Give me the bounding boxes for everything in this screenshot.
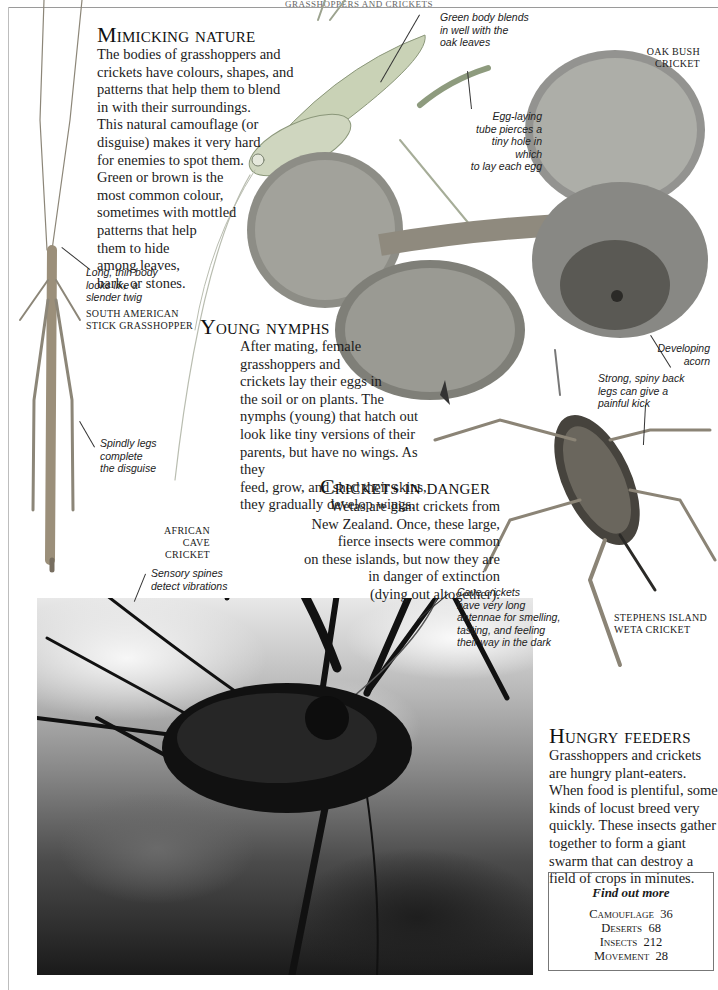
label-oak-bush-cricket: OAK BUSH CRICKET (640, 46, 700, 70)
caption-line: legs can give a (598, 385, 684, 398)
text-line: Grasshoppers and crickets (549, 747, 718, 765)
label-line: AFRICAN (140, 525, 210, 537)
cross-reference-item[interactable]: Insects 212 (549, 935, 713, 949)
label-african-cave-cricket: AFRICAN CAVE CRICKET (140, 525, 210, 561)
text-line: crickets lay their eggs in (240, 373, 430, 391)
section-heading: Young nymphs (200, 316, 430, 338)
cross-reference-topic: Movement (594, 949, 649, 963)
text-line: crickets have colours, shapes, and (97, 64, 297, 82)
caption-line: looks like a (86, 279, 158, 292)
label-line: OAK BUSH (640, 46, 700, 58)
cross-reference-topic: Camouflage (589, 907, 654, 921)
cave-cricket-image (37, 598, 533, 975)
caption-spindly-legs: Spindly legs complete the disguise (100, 437, 157, 475)
label-line: STICK GRASSHOPPER (86, 320, 193, 332)
caption-line: to lay each egg (470, 160, 542, 173)
label-line: SOUTH AMERICAN (86, 308, 193, 320)
caption-line: Cave crickets (457, 586, 560, 599)
cross-reference-item[interactable]: Deserts 68 (549, 921, 713, 935)
section-heading: Crickets in danger (320, 476, 520, 498)
cross-reference-page: 212 (644, 935, 663, 949)
caption-green-body: Green body blends in well with the oak l… (440, 11, 529, 49)
caption-line: their way in the dark (457, 636, 560, 649)
text-line: nymphs (young) that hatch out (240, 408, 430, 426)
find-out-more-heading: Find out more (549, 885, 713, 901)
caption-line: slender twig (86, 291, 158, 304)
cross-reference-list: Camouflage 36 Deserts 68 Insects 212 Mov… (549, 907, 713, 963)
text-line: This natural camouflage (or (97, 116, 297, 134)
cross-reference-item[interactable]: Camouflage 36 (549, 907, 713, 921)
label-line: CRICKET (640, 58, 700, 70)
section-body: Grasshoppers and crickets are hungry pla… (549, 747, 718, 888)
text-line: in with their surroundings. (97, 99, 297, 117)
caption-line: in well with the (440, 24, 529, 37)
text-line: swarm that can destroy a (549, 853, 718, 871)
text-line: on these islands, but now they are (290, 551, 500, 569)
caption-cave-cricket-antennae: Cave crickets have very long antennae fo… (457, 586, 560, 649)
cross-reference-page: 36 (660, 907, 673, 921)
text-line: in danger of extinction (290, 568, 500, 586)
caption-line: oak leaves (440, 36, 529, 49)
caption-line: Spindly legs (100, 437, 157, 450)
caption-line: antennae for smelling, (457, 611, 560, 624)
text-line: sometimes with mottled (97, 204, 297, 222)
text-line: for enemies to spot them. (97, 152, 297, 170)
text-line: patterns that help (97, 222, 297, 240)
section-crickets-in-danger: Crickets in danger Wetas are giant crick… (270, 476, 520, 604)
text-line: New Zealand. Once, these large, (290, 516, 500, 534)
cross-reference-topic: Deserts (601, 921, 642, 935)
caption-line: detect vibrations (151, 580, 227, 593)
cave-cricket-photo (37, 598, 533, 975)
text-line: patterns that help them to blend (97, 81, 297, 99)
cross-reference-item[interactable]: Movement 28 (549, 949, 713, 963)
caption-line: tiny hole in which (470, 135, 542, 160)
label-line: STEPHENS ISLAND (614, 612, 707, 624)
text-line: disguise) makes it very hard (97, 134, 297, 152)
caption-line: complete (100, 450, 157, 463)
caption-line: Sensory spines (151, 567, 227, 580)
text-line: grasshoppers and (240, 356, 430, 374)
text-line: most common colour, (97, 187, 297, 205)
text-line: together to form a giant (549, 835, 718, 853)
text-line: quickly. These insects gather (549, 817, 718, 835)
label-line: CAVE CRICKET (140, 537, 210, 561)
caption-line: Egg-laying (470, 110, 542, 123)
text-line: the soil or on plants. The (240, 391, 430, 409)
section-heading: Mimicking nature (97, 24, 297, 46)
caption-line: tasting, and feeling (457, 624, 560, 637)
section-heading: Hungry feeders (549, 725, 718, 747)
caption-line: Strong, spiny back (598, 372, 684, 385)
cross-reference-topic: Insects (600, 935, 638, 949)
text-line: fierce insects were common (290, 533, 500, 551)
caption-egg-laying-tube: Egg-laying tube pierces a tiny hole in w… (470, 110, 542, 173)
label-weta-cricket: STEPHENS ISLAND WETA CRICKET (614, 612, 707, 636)
text-line: Green or brown is the (97, 169, 297, 187)
section-body: The bodies of grasshoppers and crickets … (97, 46, 297, 292)
section-mimicking-nature: Mimicking nature The bodies of grasshopp… (97, 24, 297, 292)
text-line: After mating, female (240, 338, 430, 356)
caption-spiny-back-legs: Strong, spiny back legs can give a painf… (598, 372, 684, 410)
caption-line: painful kick (598, 397, 684, 410)
cross-reference-page: 68 (648, 921, 661, 935)
label-line: WETA CRICKET (614, 624, 707, 636)
caption-line: the disguise (100, 462, 157, 475)
caption-line: acorn (650, 355, 710, 368)
text-line: Wetas are giant crickets from (290, 498, 500, 516)
text-line: kinds of locust breed very (549, 800, 718, 818)
text-line: When food is plentiful, some (549, 782, 718, 800)
caption-long-thin-body: Long, thin body looks like a slender twi… (86, 266, 158, 304)
caption-line: Green body blends (440, 11, 529, 24)
text-line: them to hide (97, 240, 297, 258)
caption-line: tube pierces a (470, 123, 542, 136)
stick-grasshopper-image (20, 0, 82, 570)
caption-developing-acorn: Developing acorn (650, 342, 710, 367)
cross-reference-page: 28 (655, 949, 668, 963)
section-hungry-feeders: Hungry feeders Grasshoppers and crickets… (549, 725, 718, 888)
text-line: are hungry plant-eaters. (549, 765, 718, 783)
label-stick-grasshopper: SOUTH AMERICAN STICK GRASSHOPPER (86, 308, 193, 332)
caption-line: Developing (650, 342, 710, 355)
caption-line: have very long (457, 599, 560, 612)
text-line: look like tiny versions of their (240, 426, 430, 444)
caption-line: Long, thin body (86, 266, 158, 279)
text-line: The bodies of grasshoppers and (97, 46, 297, 64)
